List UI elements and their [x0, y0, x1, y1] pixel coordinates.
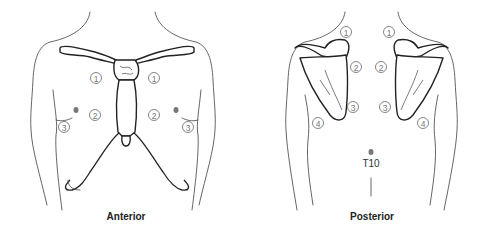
anterior-caption: Anterior	[107, 211, 146, 222]
auscultation-point-4: 4	[313, 118, 324, 129]
auscultation-point-1: 1	[341, 27, 352, 38]
svg-text:2: 2	[93, 111, 98, 121]
svg-text:4: 4	[421, 119, 426, 129]
auscultation-point-1: 1	[149, 73, 160, 84]
auscultation-point-3: 3	[183, 122, 194, 133]
auscultation-point-3: 3	[380, 102, 391, 113]
svg-text:3: 3	[186, 123, 191, 133]
auscultation-point-1: 1	[384, 27, 395, 38]
nipple-marker	[74, 107, 79, 113]
svg-text:3: 3	[383, 103, 388, 113]
svg-text:1: 1	[152, 74, 157, 84]
svg-text:1: 1	[387, 28, 392, 38]
auscultation-point-3: 3	[59, 122, 70, 133]
posterior-body-outline	[286, 12, 458, 210]
auscultation-point-1: 1	[91, 73, 102, 84]
auscultation-point-2: 2	[351, 62, 362, 73]
svg-text:1: 1	[94, 74, 99, 84]
posterior-caption: Posterior	[350, 211, 394, 222]
diagram-svg: 11223311223344	[0, 0, 489, 229]
auscultation-point-2: 2	[149, 110, 160, 121]
auscultation-diagram: 11223311223344 Anterior Posterior T10	[0, 0, 489, 229]
svg-text:4: 4	[316, 119, 321, 129]
svg-text:2: 2	[354, 63, 359, 73]
svg-text:3: 3	[351, 103, 356, 113]
svg-text:2: 2	[152, 111, 157, 121]
nipple-marker	[174, 107, 179, 113]
auscultation-point-2: 2	[376, 62, 387, 73]
auscultation-point-2: 2	[90, 110, 101, 121]
auscultation-point-4: 4	[418, 118, 429, 129]
scapulae	[295, 39, 448, 119]
t10-label: T10	[362, 158, 379, 169]
svg-text:2: 2	[379, 63, 384, 73]
t10-dot	[369, 149, 374, 155]
auscultation-markers: 11223311223344	[59, 27, 429, 156]
svg-text:3: 3	[62, 123, 67, 133]
auscultation-point-3: 3	[348, 102, 359, 113]
svg-text:1: 1	[344, 28, 349, 38]
